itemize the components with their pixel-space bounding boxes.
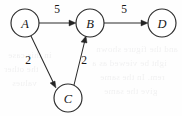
node-d[interactable]: D — [148, 9, 176, 37]
node-a[interactable]: A — [11, 9, 39, 37]
edge-b-to-d[interactable] — [104, 20, 148, 26]
edge-weight-a-c: 2 — [25, 54, 31, 66]
graph-figure: and the figure shown ight be viewed as a… — [0, 0, 182, 116]
node-b-label: B — [86, 17, 94, 31]
edge-weight-c-b: 2 — [81, 54, 87, 66]
graph-canvas: A B D C 5 5 2 2 — [0, 0, 182, 116]
node-b[interactable]: B — [76, 9, 104, 37]
edge-c-to-b-arrowhead — [81, 36, 87, 43]
edge-a-to-c-arrowhead — [50, 81, 56, 88]
edge-b-to-d-arrowhead — [141, 20, 148, 26]
edge-a-to-c[interactable] — [31, 36, 56, 88]
node-a-label: A — [20, 17, 29, 31]
node-c-label: C — [64, 92, 73, 106]
edge-a-to-b-arrowhead — [69, 20, 76, 26]
edge-weight-a-b: 5 — [54, 3, 60, 15]
node-d-label: D — [156, 17, 166, 31]
edge-weight-b-d: 5 — [121, 3, 127, 15]
edge-a-to-b[interactable] — [39, 20, 76, 26]
edge-a-to-c-line — [31, 36, 54, 84]
node-c[interactable]: C — [54, 84, 82, 112]
